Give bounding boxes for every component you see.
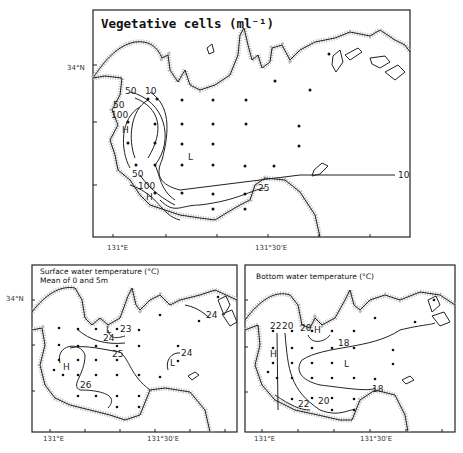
latitude-label: 34°N [67,64,85,72]
contour-label: 24 [206,310,218,320]
contour-label: 24 [103,333,115,343]
map-frame [32,265,237,432]
island [402,376,414,384]
extremum-high: H [63,362,70,372]
island [428,296,450,326]
contour-18 [302,323,435,360]
sampling-stations [53,296,220,409]
longitude-label: 131°30'E [147,435,179,443]
figure: Vegetative cells (ml⁻¹) 50 10 50 100 H L… [0,0,463,453]
contour-20-north [308,335,330,341]
contour-label: 20 [300,323,312,333]
contour-label: 20 [282,321,294,331]
map-frame [93,10,410,237]
extremum-high: H [122,125,129,135]
contour-label: 100 [138,181,155,191]
contour-label: 10 [398,170,410,180]
island [312,163,328,176]
contour-label: 22 [270,321,281,331]
contour-label: 18 [372,384,384,394]
map-title: Bottom water temperature (°C) [256,272,374,281]
island [370,56,390,68]
island [385,65,405,80]
extremum-low: L [170,358,175,368]
coast-shading [93,76,320,237]
contour-18-south [299,360,375,390]
contour-label: 50 [113,100,125,110]
contour-label: 26 [80,380,92,390]
contour-label: 100 [111,110,128,120]
contour-22 [277,333,278,410]
island [188,372,199,380]
extremum-high: H [270,349,277,359]
contour-label: 20 [318,396,330,406]
contour-label: 18 [338,338,350,348]
extremum-low: L [344,359,349,369]
extremum-high: H [146,192,153,202]
island [332,50,343,72]
longitude-label: 131°30'E [360,435,392,443]
island [207,44,214,54]
contour-100 [131,100,148,158]
map-vegetative-cells: Vegetative cells (ml⁻¹) 50 10 50 100 H L… [67,10,410,252]
contour-label: 10 [145,86,157,96]
longitude-label: 131°E [254,435,275,443]
map-title: Surface water temperature (°C) [40,267,159,276]
contour-10 [150,92,395,190]
contour-label: 25 [258,183,269,193]
longitude-label: 131°30'E [255,244,287,252]
island [345,48,362,60]
map-surface-temperature: Surface water temperature (°C) Mean of 0… [6,265,237,443]
contour-25-south [160,188,265,208]
map-title: Vegetative cells (ml⁻¹) [101,16,274,31]
north-coastline [93,28,410,90]
extremum-low: L [188,152,193,162]
contour-label: 22 [298,399,309,409]
contour-label: 50 [125,86,137,96]
latitude-label: 34°N [6,295,24,303]
contour-label: 50 [132,169,144,179]
sampling-stations [267,299,436,412]
contour-label: 24 [181,348,193,358]
longitude-label: 131°E [43,435,64,443]
island [218,296,237,326]
contour-label: 23 [120,324,131,334]
axis-ticks [32,300,225,432]
contour-26 [59,346,111,408]
extremum-high: H [314,325,321,335]
south-coastline [93,76,320,237]
map-bottom-temperature: Bottom water temperature (°C) 22 20 20 H… [245,265,455,443]
map-subtitle: Mean of 0 and 5m [40,276,108,285]
contour-label: 25 [112,349,123,359]
coast-shading [245,325,408,432]
contour-24 [78,330,125,343]
longitude-label: 131°E [107,244,128,252]
